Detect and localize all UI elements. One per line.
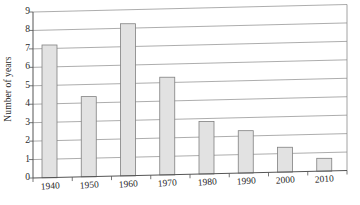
- x-axis-tick-label: 1970: [151, 178, 184, 190]
- y-axis-tick-label: 4: [16, 99, 30, 109]
- x-axis-tick-label: 1950: [73, 180, 106, 192]
- y-axis-tick-label: 7: [16, 44, 30, 54]
- gridline: [33, 115, 347, 123]
- x-axis-tick-label: 2010: [308, 174, 341, 186]
- bar: [81, 97, 96, 177]
- bar: [317, 158, 332, 171]
- bar: [199, 121, 214, 174]
- y-axis-tick-label: 9: [16, 7, 30, 17]
- y-axis-tick-labels: 0123456789: [16, 0, 30, 178]
- y-axis-tick-label: 3: [16, 118, 30, 128]
- bar: [160, 77, 175, 175]
- plot-area: [33, 12, 347, 178]
- gridline: [33, 23, 347, 31]
- bar: [238, 131, 253, 173]
- x-axis-tick-label: 1940: [34, 180, 67, 192]
- plot-canvas: [33, 12, 347, 178]
- x-axis-tick-label: 2000: [269, 175, 302, 187]
- x-axis-tick-label: 1960: [112, 179, 145, 191]
- chart-figure: Number of years 0123456789 1940195019601…: [0, 0, 360, 205]
- x-axis-tick-labels: 19401950196019701980199020002010: [33, 180, 347, 205]
- gridline: [33, 78, 347, 86]
- gridline: [33, 60, 347, 68]
- x-axis-tick-label: 1990: [230, 176, 263, 188]
- bar: [278, 147, 293, 172]
- y-axis-title-text: Number of years: [3, 56, 13, 121]
- bar: [121, 24, 136, 176]
- y-axis-tick-label: 8: [16, 26, 30, 36]
- gridline: [33, 134, 347, 142]
- bar: [42, 45, 57, 178]
- y-axis-tick-label: 6: [16, 63, 30, 73]
- x-axis-tick-label: 1980: [191, 177, 224, 189]
- gridline: [33, 97, 347, 105]
- gridline: [33, 5, 347, 13]
- y-axis-title: Number of years: [0, 0, 16, 178]
- y-axis-tick-label: 1: [16, 155, 30, 165]
- y-axis-tick-label: 5: [16, 81, 30, 91]
- y-axis-tick-label: 2: [16, 136, 30, 146]
- axis-lines: [33, 5, 347, 179]
- gridlines: [33, 5, 347, 160]
- gridline: [33, 41, 347, 49]
- y-axis-tick-label: 0: [16, 173, 30, 183]
- gridline: [33, 152, 347, 160]
